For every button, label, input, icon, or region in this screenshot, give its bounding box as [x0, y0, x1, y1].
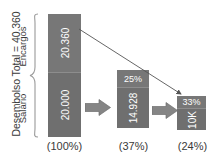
- waterfall-reduction-diagram: Desembolso Total = 40.360 Encargos Salár…: [0, 0, 213, 163]
- segment-label-encargos: Encargos: [17, 18, 28, 76]
- bar-1: 20.360 20.000: [48, 14, 81, 137]
- bar-1-segment-salario: 20.000: [48, 72, 81, 137]
- bar-2-caption: (37%): [109, 140, 158, 152]
- segment-label-salario: Salário: [17, 83, 28, 135]
- bar-1-segment-encargos: 20.360: [48, 14, 81, 72]
- bar-3: 33% 10K: [177, 96, 206, 130]
- curly-brace-icon: [29, 13, 39, 138]
- bar-3-segment-lower: 10K: [177, 108, 206, 130]
- bar-3-caption: (24%): [168, 140, 213, 152]
- bar-1-salario-value: 20.000: [59, 90, 70, 121]
- block-arrow-right-icon: [152, 102, 178, 119]
- bar-1-encargos-value: 20.360: [59, 28, 70, 59]
- bar-1-caption: (100%): [40, 140, 89, 152]
- bar-3-lower-value: 10K: [186, 111, 197, 129]
- diagonal-arrow-icon: [78, 28, 190, 100]
- block-arrow-right-icon: [85, 99, 111, 116]
